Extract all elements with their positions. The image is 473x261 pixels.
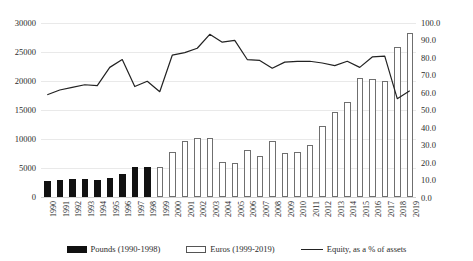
gridline: [41, 197, 416, 198]
bar: [107, 178, 114, 197]
x-axis-tick-label: 2004: [225, 201, 233, 235]
x-axis-tick-label: 1996: [125, 201, 133, 235]
x-axis-tick-label: 1991: [63, 201, 71, 235]
x-axis-tick-label: 2014: [350, 201, 358, 235]
y-axis-left-tick: 30000: [0, 19, 36, 28]
bar: [144, 167, 151, 197]
bar: [232, 163, 239, 197]
y-axis-left-tick: 15000: [0, 106, 36, 115]
bar: [69, 179, 76, 197]
bar: [207, 138, 214, 197]
y-axis-right-tick: 0.0: [421, 194, 457, 203]
bar: [382, 81, 389, 197]
bar: [344, 102, 351, 197]
x-axis-tick-label: 2016: [375, 201, 383, 235]
x-axis-tick-label: 2003: [213, 201, 221, 235]
bar: [119, 174, 126, 197]
y-axis-left-tick: 10000: [0, 135, 36, 144]
x-axis-tick-label: 2009: [288, 201, 296, 235]
x-axis-tick-label: 2005: [238, 201, 246, 235]
bar: [169, 152, 176, 197]
x-axis-tick-label: 2006: [250, 201, 258, 235]
x-axis-tick-label: 1990: [50, 201, 58, 235]
x-axis-tick-label: 1997: [138, 201, 146, 235]
chart-container: 30000 25000 20000 15000 10000 5000 0 100…: [0, 0, 473, 261]
legend-item[interactable]: Pounds (1990-1998): [67, 244, 161, 254]
x-axis-tick-label: 1992: [75, 201, 83, 235]
bar: [319, 126, 326, 197]
x-axis-tick-label: 2012: [325, 201, 333, 235]
bar: [282, 153, 289, 197]
chart-legend: Pounds (1990-1998)Euros (1999-2019)Equit…: [0, 240, 473, 258]
y-axis-left-tick: 5000: [0, 164, 36, 173]
y-axis-right-tick: 40.0: [421, 124, 457, 133]
x-axis-tick-label: 2001: [188, 201, 196, 235]
legend-label: Equity, as a % of assets: [327, 244, 407, 254]
x-axis-tick-label: 2010: [300, 201, 308, 235]
x-axis-labels: 1990199119921993199419951996199719981999…: [41, 199, 416, 237]
y-axis-right-tick: 100.0: [421, 19, 457, 28]
bars-layer: [41, 23, 416, 197]
y-axis-right-tick: 70.0: [421, 71, 457, 80]
x-axis-tick-label: 2002: [200, 201, 208, 235]
filled-swatch-icon: [67, 246, 87, 253]
y-axis-left-tick: 20000: [0, 77, 36, 86]
line-swatch-icon: [301, 249, 323, 250]
x-axis-tick-label: 1998: [150, 201, 158, 235]
bar: [94, 180, 101, 197]
y-axis-right-tick: 80.0: [421, 54, 457, 63]
plot-area: [41, 23, 416, 197]
bar: [407, 33, 414, 197]
x-axis-tick-label: 2013: [338, 201, 346, 235]
legend-item[interactable]: Euros (1999-2019): [186, 244, 274, 254]
bar: [357, 78, 364, 197]
bar: [307, 145, 314, 197]
bar: [82, 179, 89, 197]
y-axis-right-tick: 30.0: [421, 141, 457, 150]
bar: [157, 167, 164, 197]
bar: [269, 141, 276, 197]
bar: [369, 79, 376, 197]
bar: [132, 167, 139, 197]
bar: [194, 138, 201, 197]
x-axis-tick-label: 2000: [175, 201, 183, 235]
x-axis-tick-label: 2015: [363, 201, 371, 235]
x-axis-tick-label: 2007: [263, 201, 271, 235]
x-axis-tick-label: 1995: [113, 201, 121, 235]
legend-label: Pounds (1990-1998): [91, 244, 161, 254]
bar: [57, 180, 64, 197]
bar: [219, 162, 226, 197]
x-axis-tick-label: 2017: [388, 201, 396, 235]
bar: [332, 112, 339, 197]
y-axis-left-tick: 0: [0, 193, 36, 202]
legend-item[interactable]: Equity, as a % of assets: [301, 244, 407, 254]
legend-label: Euros (1999-2019): [210, 244, 274, 254]
bar: [257, 156, 264, 197]
y-axis-right-tick: 20.0: [421, 159, 457, 168]
x-axis-tick-label: 1999: [163, 201, 171, 235]
y-axis-right-tick: 50.0: [421, 106, 457, 115]
x-axis-tick-label: 1993: [88, 201, 96, 235]
y-axis-right-tick: 60.0: [421, 89, 457, 98]
x-axis-tick-label: 2008: [275, 201, 283, 235]
x-axis-tick-label: 2018: [400, 201, 408, 235]
bar: [244, 150, 251, 197]
bar: [294, 152, 301, 197]
bar: [44, 181, 51, 197]
bar: [394, 47, 401, 197]
y-axis-right-tick: 90.0: [421, 36, 457, 45]
bar: [182, 141, 189, 197]
x-axis-tick-label: 1994: [100, 201, 108, 235]
hollow-swatch-icon: [186, 246, 206, 253]
y-axis-right-tick: 10.0: [421, 176, 457, 185]
x-axis-tick-label: 2011: [313, 201, 321, 235]
y-axis-left-tick: 25000: [0, 48, 36, 57]
x-axis-tick-label: 2019: [413, 201, 421, 235]
